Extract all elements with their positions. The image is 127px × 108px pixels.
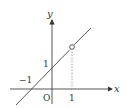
x-intercept-label: −1	[19, 75, 32, 85]
graph-diagram: y x O 1 1 −1	[0, 0, 127, 108]
y-tick-label: 1	[43, 59, 49, 69]
origin-label: O	[43, 93, 50, 103]
x-tick-label: 1	[69, 93, 75, 103]
x-axis-label: x	[114, 83, 120, 94]
graph-canvas: y x O 1 1 −1	[0, 0, 127, 108]
graph-line-upper	[74, 28, 91, 45]
y-axis-label: y	[46, 8, 53, 19]
open-point-marker	[70, 45, 75, 50]
